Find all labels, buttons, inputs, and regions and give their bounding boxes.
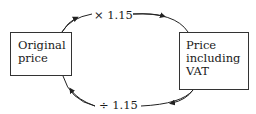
node-label-line: VAT xyxy=(186,65,248,78)
original-price-box: Original price xyxy=(10,32,72,76)
price-including-vat-box: Price including VAT xyxy=(179,32,249,90)
divide-label: ÷ 1.15 xyxy=(99,98,138,112)
node-label-line: price xyxy=(18,52,71,65)
multiply-label: × 1.15 xyxy=(94,8,133,22)
arrow-head-bottom-left xyxy=(71,90,95,106)
